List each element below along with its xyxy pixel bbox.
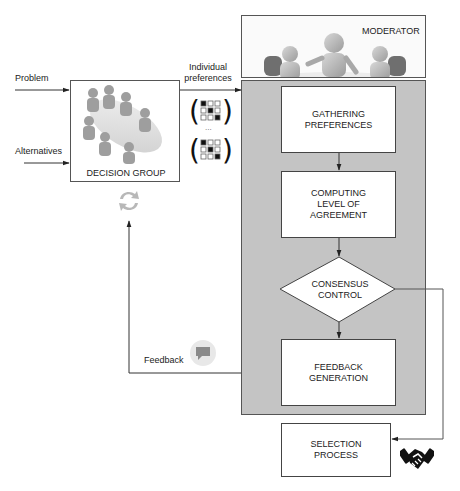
feedback-loop-arrow xyxy=(129,221,241,373)
refresh-cycle-icon xyxy=(114,186,144,216)
connectors-layer xyxy=(0,0,460,491)
consensus-line2: CONTROL xyxy=(300,290,380,301)
consensus-line1: CONSENSUS xyxy=(300,279,380,290)
consensus-to-selection-arrow xyxy=(392,289,443,439)
handshake-icon xyxy=(400,443,434,475)
feedback-label: Feedback xyxy=(144,355,184,365)
chat-bubble-icon xyxy=(190,340,216,366)
consensus-control-label: CONSENSUS CONTROL xyxy=(300,279,380,301)
